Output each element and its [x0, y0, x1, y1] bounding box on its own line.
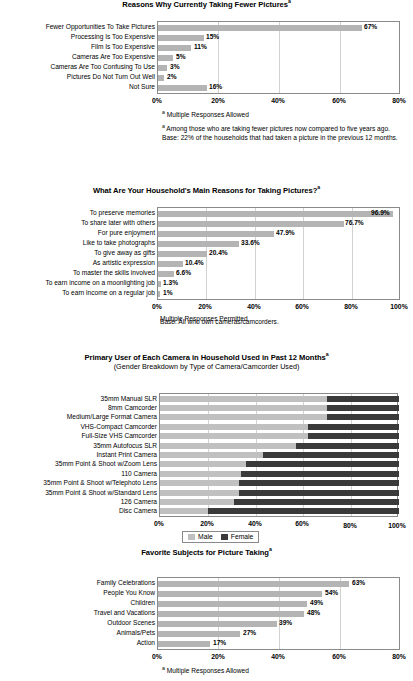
- chart-1-title-text: Reasons Why Currently Taking Fewer Pictu…: [122, 0, 288, 9]
- chart-1-category-label: Fewer Opportunities To Take Pictures: [46, 23, 155, 30]
- chart-1-bar: [158, 55, 173, 61]
- chart-4-value-label: 17%: [213, 639, 226, 646]
- chart-1-plot-area: [157, 21, 400, 94]
- chart-4-xtick: 60%: [332, 653, 346, 661]
- chart-2-bar: [158, 241, 239, 247]
- chart-4-category-label: Outdoor Scenes: [107, 619, 155, 626]
- legend-item-male: Male: [188, 533, 213, 541]
- chart-3-title-text: Primary User of Each Camera in Household…: [84, 353, 325, 362]
- chart-4-category-label: People You Know: [103, 589, 155, 596]
- chart-1-note-block: a Among those who are taking fewer pictu…: [162, 122, 412, 143]
- chart-2-value-label: 96.9%: [371, 209, 390, 216]
- chart-2-category-label: Like to take photographs: [83, 239, 155, 246]
- chart-2-value-label: 10.4%: [185, 259, 204, 266]
- chart-1-title-superscript: a: [288, 0, 291, 4]
- chart-2-bar: [158, 261, 183, 267]
- chart-1-footnote-superscript: a: [162, 109, 165, 115]
- chart-4-bar: [158, 631, 240, 637]
- chart-2-title-text: What Are Your Household's Main Reasons f…: [93, 186, 317, 195]
- chart-3-bar-female: [263, 452, 399, 458]
- chart-4-xtick: 0%: [152, 653, 162, 661]
- legend-swatch-female-icon: [221, 534, 228, 540]
- chart-3-bar-male: [160, 424, 308, 430]
- chart-2-category-label: To share later with others: [81, 219, 155, 226]
- chart-3-bar-female: [327, 396, 399, 402]
- chart-block-reasons-fewer-pictures: Reasons Why Currently Taking Fewer Pictu…: [0, 0, 413, 124]
- chart-3-xtick: 40%: [248, 520, 262, 528]
- chart-1-base-text: Base: 22% of the households that had tak…: [162, 134, 398, 141]
- chart-1-title: Reasons Why Currently Taking Fewer Pictu…: [0, 0, 413, 9]
- chart-2-bar: [158, 231, 274, 237]
- chart-2-xtick: 40%: [247, 303, 261, 311]
- chart-4-xtick: 40%: [271, 653, 285, 661]
- chart-1-category-label: Not Sure: [129, 83, 155, 90]
- chart-1-category-label: Pictures Do Not Turn Out Well: [67, 73, 155, 80]
- chart-2-xtick: 0%: [152, 303, 162, 311]
- chart-4-plot-wrapper: Family Celebrations People You Know Chil…: [0, 557, 413, 677]
- chart-3-category-label: 110 Camera: [121, 470, 157, 477]
- chart-3-category-label: 35mm Point & Shoot w/Zoom Lens: [55, 460, 157, 467]
- chart-4-category-label: Action: [137, 639, 155, 646]
- chart-1-xtick: 20%: [211, 97, 225, 105]
- chart-3-xtick: 80%: [343, 522, 357, 530]
- chart-3-title-superscript: a: [326, 351, 329, 357]
- legend-item-female: Female: [221, 533, 254, 541]
- chart-3-category-label: VHS-Compact Camcorder: [80, 423, 157, 430]
- chart-2-category-label: To earn income on a moonlighting job: [45, 279, 155, 286]
- chart-3-category-label: Medium/Large Format Camera: [67, 413, 157, 420]
- chart-2-bar: [158, 291, 160, 297]
- chart-3-category-label: 35mm Point & Shoot w/Standard Lens: [45, 489, 157, 496]
- chart-1-value-label: 5%: [176, 53, 186, 60]
- chart-4-footnote-superscript: a: [162, 665, 165, 671]
- chart-1-gridline-40: [279, 22, 280, 93]
- chart-1-category-label: Cameras Are Too Expensive: [72, 53, 155, 60]
- chart-3-subtitle: (Gender Breakdown by Type of Camera/Camc…: [0, 362, 413, 371]
- chart-2-value-label: 33.6%: [241, 239, 260, 246]
- chart-3-bar-female: [308, 433, 399, 439]
- chart-1-bar: [158, 65, 167, 71]
- chart-1-bar: [158, 45, 191, 51]
- chart-3-xtick: 100%: [388, 522, 405, 530]
- chart-4-category-label: Family Celebrations: [97, 579, 155, 586]
- chart-3-bar-male: [160, 461, 246, 467]
- chart-3-category-label: 126 Camera: [121, 498, 157, 505]
- chart-4-bar: [158, 611, 304, 617]
- chart-1-note-text: Among those who are taking fewer picture…: [166, 125, 390, 132]
- chart-3-bar-male: [160, 405, 327, 411]
- chart-4-bar: [158, 601, 307, 607]
- chart-3-xtick: 60%: [295, 520, 309, 528]
- chart-2-bar: [158, 221, 344, 227]
- chart-2-title: What Are Your Household's Main Reasons f…: [0, 183, 413, 195]
- chart-1-xtick: 60%: [332, 97, 346, 105]
- chart-3-xtick: 20%: [200, 520, 214, 528]
- chart-3-bar-female: [246, 461, 399, 467]
- chart-3-bar-male: [160, 433, 308, 439]
- chart-3-bar-male: [160, 443, 296, 449]
- chart-4-value-label: 49%: [310, 599, 323, 606]
- chart-3-bar-male: [160, 480, 239, 486]
- chart-4-category-label: Children: [130, 599, 155, 606]
- chart-3-category-label: Instant Print Camera: [97, 451, 157, 458]
- chart-3-bar-female: [241, 471, 399, 477]
- chart-1-value-label: 67%: [364, 23, 377, 30]
- chart-3-bar-female: [239, 490, 399, 496]
- chart-1-value-label: 16%: [209, 83, 222, 90]
- chart-block-primary-user-by-camera: Primary User of Each Camera in Household…: [0, 350, 413, 571]
- chart-3-title: Primary User of Each Camera in Household…: [0, 350, 413, 362]
- chart-4-value-label: 54%: [325, 589, 338, 596]
- chart-2-category-label: To give away as gifts: [94, 249, 155, 256]
- chart-1-footnote: a Multiple Responses Allowed: [162, 108, 249, 119]
- chart-4-bar: [158, 621, 277, 627]
- chart-block-favorite-subjects: Favorite Subjects for Picture Takinga Fa…: [0, 545, 413, 677]
- chart-1-category-label: Cameras Are Too Confusing To Use: [50, 63, 155, 70]
- chart-1-bar: [158, 35, 204, 41]
- chart-block-main-reasons-taking-pictures: What Are Your Household's Main Reasons f…: [0, 183, 413, 325]
- chart-4-value-label: 63%: [352, 579, 365, 586]
- chart-3-bar-female: [327, 414, 399, 420]
- chart-1-xtick: 80%: [392, 97, 406, 105]
- chart-3-category-label: Disc Camera: [119, 507, 157, 514]
- chart-2-xtick: 80%: [344, 303, 358, 311]
- chart-1-value-label: 15%: [206, 33, 219, 40]
- chart-2-xtick: 60%: [295, 303, 309, 311]
- chart-4-value-label: 48%: [307, 609, 320, 616]
